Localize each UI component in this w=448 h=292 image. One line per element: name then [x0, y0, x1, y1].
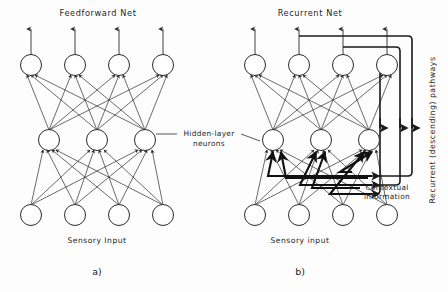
panel-b-input-stems — [255, 205, 387, 225]
panel-a-input-hidden-connections — [31, 150, 163, 205]
panel-b-hidden-output-connections — [251, 75, 391, 130]
contextual-callout-line2: information — [364, 192, 410, 201]
recurrent-pathways-label: Recurrent (descending) pathways — [428, 57, 437, 204]
panel-b-output-neurons — [245, 55, 398, 76]
panel-a-hidden-output-connections — [27, 75, 167, 130]
contextual-callout-line1: Contextual — [365, 183, 408, 192]
figure-container: Feedforward Net Sensory Input a) — [0, 0, 448, 292]
hidden-layer-callout: Hidden-layer neurons — [156, 129, 260, 148]
panel-b-input-label: Sensory input — [271, 236, 330, 245]
panel-a-title: Feedforward Net — [60, 8, 137, 18]
panel-b-panel-label: b) — [295, 266, 305, 277]
panel-a-output-axons — [31, 29, 163, 55]
panel-b-input-neurons — [245, 205, 398, 226]
contextual-information-callout: Contextual information — [364, 183, 410, 201]
panel-a-panel-label: a) — [92, 266, 102, 277]
hidden-layer-callout-line1: Hidden-layer — [183, 129, 235, 138]
panel-b-title: Recurrent Net — [278, 8, 343, 18]
panel-a-input-neurons — [21, 205, 174, 226]
network-diagram-svg: Feedforward Net Sensory Input a) — [0, 0, 448, 292]
panel-b-hidden-neurons — [263, 130, 380, 151]
panel-a-feedforward: Feedforward Net Sensory Input a) — [21, 8, 174, 277]
panel-b-output-axons — [255, 29, 387, 55]
panel-b-recurrent: Recurrent Net Sensory input b) — [245, 8, 413, 277]
panel-a-input-stems — [31, 205, 163, 225]
panel-a-input-label: Sensory Input — [67, 236, 126, 245]
hidden-layer-callout-line2: neurons — [193, 139, 225, 148]
recurrent-pathways-callout: Recurrent (descending) pathways — [428, 57, 437, 204]
panel-a-hidden-neurons — [39, 130, 156, 151]
panel-a-output-neurons — [21, 55, 174, 76]
